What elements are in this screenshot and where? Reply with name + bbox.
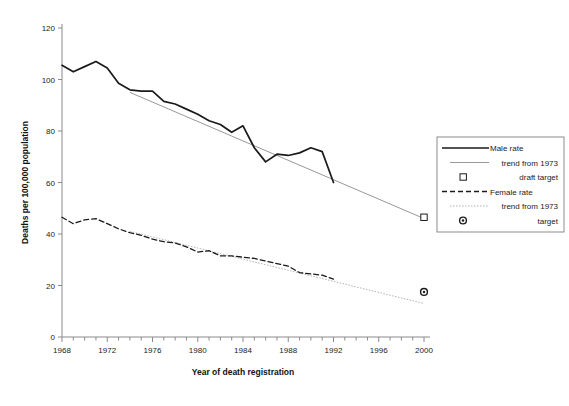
x-axis-tick-label: 1992: [325, 346, 343, 355]
y-axis-tick-label: 40: [46, 230, 55, 239]
legend-item-label: target: [538, 217, 559, 226]
y-axis-tick-label: 100: [42, 76, 56, 85]
x-axis-tick-label: 1972: [98, 346, 116, 355]
x-axis-tick-label: 1996: [370, 346, 388, 355]
x-axis-title: Year of death registration: [192, 367, 295, 377]
y-axis-tick-label: 80: [46, 127, 55, 136]
legend-item-label: draft target: [519, 173, 558, 182]
x-axis-tick-label: 1984: [234, 346, 252, 355]
legend-symbol-open-square: [460, 174, 466, 180]
legend-item-label: trend from 1973: [502, 202, 559, 211]
x-axis-tick-label: 2000: [415, 346, 433, 355]
marker-target-dot: [423, 291, 425, 293]
x-axis-tick-label: 1968: [53, 346, 71, 355]
trend-line-female: [130, 231, 424, 303]
legend-item-label: Male rate: [490, 144, 524, 153]
x-axis-tick-label: 1988: [279, 346, 297, 355]
line-chart: 0204060801001201968197219761980198419881…: [0, 0, 569, 406]
y-axis-title: Deaths per 100,000 population: [20, 121, 30, 244]
y-axis-tick-label: 120: [42, 24, 56, 33]
marker-draft-target: [421, 214, 427, 220]
legend-item-label: trend from 1973: [502, 159, 559, 168]
chart-container: 0204060801001201968197219761980198419881…: [0, 0, 569, 406]
trend-line-male: [130, 92, 424, 218]
y-axis-tick-label: 60: [46, 179, 55, 188]
y-axis-tick-label: 0: [51, 333, 56, 342]
legend-item-label: Female rate: [490, 188, 533, 197]
y-axis-tick-label: 20: [46, 282, 55, 291]
legend-symbol-dot-marker-center: [462, 219, 464, 221]
x-axis-tick-label: 1976: [144, 346, 162, 355]
x-axis-tick-label: 1980: [189, 346, 207, 355]
